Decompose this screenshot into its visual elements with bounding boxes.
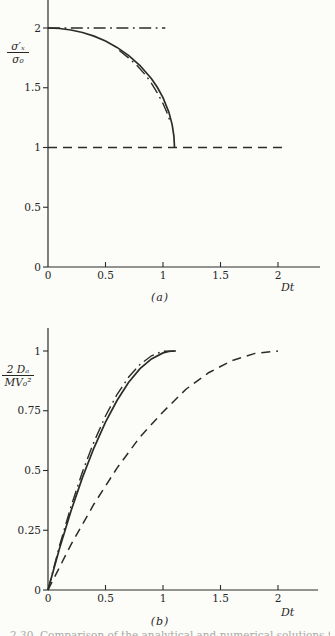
- series-solid-curve-b: [48, 351, 175, 590]
- y-axis-label-a-denominator: σ₀: [7, 52, 29, 65]
- y-axis-label-b: 2 Dₐ MV₀²: [2, 363, 34, 388]
- y-tick-label-b: 0.75: [18, 404, 41, 416]
- y-axis-label-a: σ′ₓ σ₀: [7, 40, 29, 65]
- y-tick-label-a: 0: [34, 261, 41, 273]
- y-axis-label-b-numerator: 2 Dₐ: [2, 363, 34, 375]
- x-tick-label-b: 0: [45, 592, 52, 604]
- y-tick-label-b: 0: [34, 584, 41, 596]
- y-tick-label-b: 1: [34, 345, 41, 357]
- figure-caption-fragment: 2.30. Comparison of the analytical and n…: [10, 630, 330, 636]
- y-tick-label-a: 2: [34, 22, 41, 34]
- y-tick-label-b: 0.25: [18, 524, 41, 536]
- x-tick-label-a: 2: [275, 269, 282, 281]
- series-solid-curve-a: [48, 28, 175, 148]
- series-dashdot-curve-b: [48, 351, 177, 590]
- x-tick-label-b: 1.5: [212, 592, 229, 604]
- subplot-caption-b: (b): [140, 615, 180, 628]
- x-tick-label-b: 2: [275, 592, 282, 604]
- x-tick-label-a: 0: [45, 269, 52, 281]
- y-tick-label-a: 1: [34, 141, 41, 153]
- x-tick-label-b: 0.5: [97, 592, 114, 604]
- y-tick-label-a: 0.5: [24, 201, 41, 213]
- series-dashdot-curve-a: [119, 51, 170, 124]
- y-axis-label-b-denominator: MV₀²: [2, 375, 34, 388]
- x-axis-label-b: Dt: [281, 606, 294, 619]
- textbook-figure: 00.511.5200.511.5200.250.50.75100.511.52…: [0, 0, 335, 636]
- y-axis-label-a-numerator: σ′ₓ: [7, 40, 29, 52]
- y-tick-label-b: 0.5: [24, 464, 41, 476]
- x-axis-label-a: Dt: [281, 281, 294, 294]
- x-tick-label-a: 1.5: [212, 269, 229, 281]
- y-tick-label-a: 1.5: [24, 81, 41, 93]
- subplot-caption-a: (a): [140, 291, 180, 304]
- plots-canvas: 00.511.5200.511.5200.250.50.75100.511.52: [0, 0, 335, 636]
- x-tick-label-a: 1: [160, 269, 167, 281]
- x-tick-label-a: 0.5: [97, 269, 114, 281]
- x-tick-label-b: 1: [160, 592, 167, 604]
